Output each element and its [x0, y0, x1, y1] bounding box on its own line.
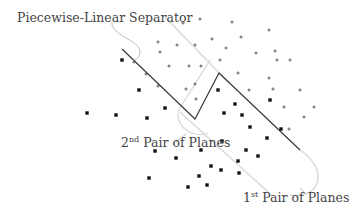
square-point [248, 125, 251, 128]
square-point [240, 113, 243, 116]
plus-point [218, 58, 221, 61]
plus-point [267, 28, 270, 31]
square-point [256, 154, 259, 157]
separator-leader [112, 22, 140, 60]
square-point [137, 88, 140, 91]
plus-point [167, 64, 170, 67]
pair2-label: 2nd Pair of Planes [121, 135, 230, 150]
plus-point [282, 105, 285, 108]
plus-point [198, 17, 201, 20]
square-point [279, 127, 282, 130]
plus-point [287, 127, 290, 130]
square-point [233, 102, 236, 105]
diagram-canvas: Piecewise-Linear Separator 2nd Pair of P… [0, 0, 358, 213]
plus-point [199, 64, 202, 67]
square-points [85, 58, 282, 188]
square-point [216, 88, 219, 91]
first-pair-of-planes [165, 17, 318, 196]
plus-point [312, 105, 315, 108]
plus-point [254, 51, 257, 54]
plus-point [236, 71, 239, 74]
square-point [209, 164, 212, 167]
plus-point [247, 88, 250, 91]
plus-point [187, 64, 190, 67]
square-point [174, 156, 177, 159]
plus-point [271, 87, 274, 90]
plus-point [239, 35, 242, 38]
square-point [186, 185, 189, 188]
plus-point [156, 40, 159, 43]
plus-point [184, 87, 187, 90]
plus-point [273, 49, 276, 52]
square-point [120, 58, 123, 61]
square-point [85, 111, 88, 114]
square-point [147, 176, 150, 179]
square-point [236, 159, 239, 162]
separator-label: Piecewise-Linear Separator [17, 10, 192, 25]
plus-point [288, 58, 291, 61]
square-point [268, 98, 271, 101]
square-point [244, 148, 247, 151]
square-point [163, 106, 166, 109]
plus-point [275, 58, 278, 61]
square-point [219, 168, 222, 171]
square-point [114, 113, 117, 116]
plus-point [175, 43, 178, 46]
second-pair-of-planes [178, 60, 210, 135]
square-point [145, 116, 148, 119]
plus-point [230, 20, 233, 23]
plus-point [194, 97, 197, 100]
square-point [205, 183, 208, 186]
square-point [237, 171, 240, 174]
pair1-label: 1st Pair of Planes [243, 190, 349, 205]
square-point [197, 174, 200, 177]
plus-point [302, 115, 305, 118]
square-point [222, 111, 225, 114]
plus-point [298, 88, 301, 91]
plus-point [210, 37, 213, 40]
plus-point [267, 76, 270, 79]
plus-point [158, 50, 161, 53]
plus-point [224, 46, 227, 49]
square-point [265, 136, 268, 139]
